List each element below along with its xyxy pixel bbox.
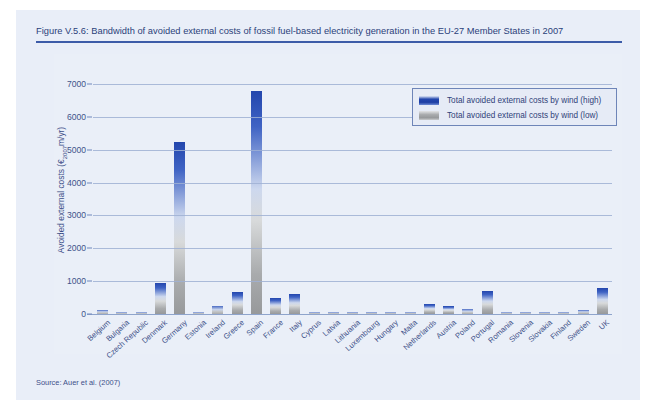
y-tick-label-0: 0 <box>81 309 86 319</box>
gridline-4000 <box>93 183 612 184</box>
x-axis-label-cyprus: Cyprus <box>299 318 323 341</box>
y-tick-mark-5000 <box>87 149 92 150</box>
y-tick-mark-3000 <box>87 215 92 216</box>
legend-swatch-low-icon <box>419 111 439 120</box>
figure-title: Figure V.5.6: Bandwidth of avoided exter… <box>36 24 622 46</box>
legend-item-low: Total avoided external costs by wind (lo… <box>419 108 610 122</box>
y-tick-mark-0 <box>87 314 92 315</box>
bar-austria <box>443 306 454 314</box>
y-tick-label-4000: 4000 <box>67 178 86 188</box>
legend-label-high: Total avoided external costs by wind (hi… <box>447 96 601 105</box>
bar-ireland <box>212 306 223 314</box>
y-tick-label-1000: 1000 <box>67 276 86 286</box>
gridline-3000 <box>93 215 612 216</box>
figure-root: Figure V.5.6: Bandwidth of avoided exter… <box>0 0 656 411</box>
y-tick-label-7000: 7000 <box>67 79 86 89</box>
bar-netherlands <box>424 304 435 314</box>
y-tick-label-2000: 2000 <box>67 243 86 253</box>
gridline-2000 <box>93 248 612 249</box>
gridline-1000 <box>93 281 612 282</box>
title-divider <box>36 41 622 43</box>
x-axis-labels: BelgiumBulgariaCzech RepublicDenmarkGerm… <box>93 314 612 374</box>
bar-greece <box>232 292 243 314</box>
bar-uk <box>597 288 608 314</box>
legend-label-low: Total avoided external costs by wind (lo… <box>447 111 598 120</box>
source-note: Source: Auer et al. (2007) <box>36 378 120 387</box>
y-tick-mark-1000 <box>87 281 92 282</box>
bar-denmark <box>155 283 166 314</box>
legend-swatch-high-icon <box>419 96 439 105</box>
x-axis-baseline <box>87 314 612 315</box>
bar-portugal <box>482 291 493 314</box>
chart-legend: Total avoided external costs by wind (hi… <box>412 88 617 126</box>
y-tick-mark-7000 <box>87 84 92 85</box>
figure-panel: Figure V.5.6: Bandwidth of avoided exter… <box>16 10 640 400</box>
y-tick-label-5000: 5000 <box>67 145 86 155</box>
bar-germany <box>174 142 185 314</box>
x-axis-label-austria: Austria <box>434 318 458 341</box>
y-tick-mark-4000 <box>87 182 92 183</box>
legend-item-high: Total avoided external costs by wind (hi… <box>419 93 610 107</box>
y-tick-label-6000: 6000 <box>67 112 86 122</box>
gridline-5000 <box>93 150 612 151</box>
gridline-7000 <box>93 84 612 85</box>
x-axis-label-greece: Greece <box>222 318 247 341</box>
x-axis-label-france: France <box>261 318 285 341</box>
y-tick-label-3000: 3000 <box>67 210 86 220</box>
y-axis-title-text: Avoided external costs (€2007m/yr) <box>56 127 66 253</box>
y-tick-mark-2000 <box>87 248 92 249</box>
bar-italy <box>289 294 300 314</box>
x-axis-label-uk: UK <box>598 318 612 332</box>
y-tick-mark-6000 <box>87 116 92 117</box>
bar-france <box>270 298 281 314</box>
